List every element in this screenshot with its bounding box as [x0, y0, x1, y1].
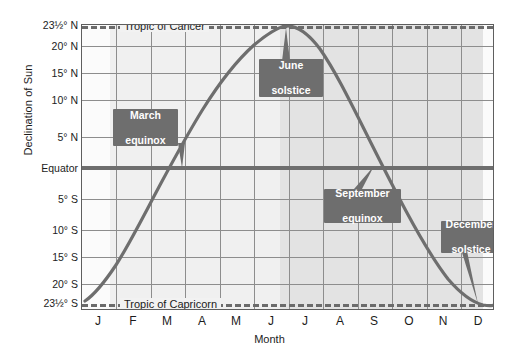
plot-area: Tropic of Cancer Tropic of Capricorn Mar… — [81, 24, 494, 310]
y-tick-5s: 5° S — [0, 194, 78, 204]
callout-march-equinox-line1: March — [121, 109, 169, 122]
y-tick-equator: Equator — [0, 163, 78, 173]
y-tick-15n: 15° N — [0, 68, 78, 78]
x-tick-mar: M — [147, 314, 187, 328]
y-tick-10n: 10° N — [0, 95, 78, 105]
x-axis-title: Month — [0, 333, 527, 345]
callout-september-equinox-line2: equinox — [331, 212, 393, 225]
y-tick-23n: 23½° N — [0, 20, 78, 30]
callout-june-solstice-line2: solstice — [267, 84, 314, 97]
y-tick-20n: 20° N — [0, 41, 78, 51]
y-axis-tick-labels: 23½° N 20° N 15° N 10° N 5° N Equator 5°… — [0, 0, 78, 354]
chart-figure: Declination of Sun Month 23½° N 20° N 15… — [0, 0, 527, 354]
callout-june-solstice-line1: June — [267, 59, 314, 72]
callout-september-equinox: Septemberequinox — [324, 189, 401, 223]
x-tick-jul: J — [285, 314, 325, 328]
callout-june-solstice-text: Junesolstice — [263, 59, 318, 97]
y-tick-23s: 23½° S — [0, 298, 78, 308]
callout-december-solstice: Decembersolstice — [441, 221, 494, 253]
callout-september-equinox-text: Septemberequinox — [327, 187, 397, 225]
callout-december-solstice-line2: solstice — [442, 243, 494, 256]
y-tick-20s: 20° S — [0, 279, 78, 289]
callout-september-equinox-line1: September — [331, 187, 393, 200]
callout-december-solstice-text: Decembersolstice — [438, 218, 494, 256]
x-axis-title-text: Month — [254, 333, 285, 345]
x-tick-sep: S — [354, 314, 394, 328]
y-tick-5n: 5° N — [0, 132, 78, 142]
callout-june-solstice: Junesolstice — [259, 59, 323, 97]
callout-december-solstice-line1: December — [442, 218, 494, 231]
callout-march-equinox-text: Marchequinox — [117, 109, 173, 147]
x-tick-jan: J — [78, 314, 118, 328]
x-tick-dec: D — [458, 314, 498, 328]
x-tick-nov: N — [423, 314, 463, 328]
y-tick-15s: 15° S — [0, 252, 78, 262]
x-tick-may: M — [216, 314, 256, 328]
callout-march-equinox: Marchequinox — [113, 109, 178, 146]
y-tick-10s: 10° S — [0, 225, 78, 235]
callout-march-equinox-line2: equinox — [121, 134, 169, 147]
